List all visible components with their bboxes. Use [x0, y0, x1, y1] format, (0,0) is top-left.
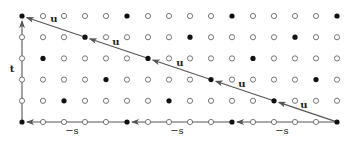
vector-arrows	[22, 18, 339, 124]
open-lattice-point	[19, 35, 24, 40]
open-lattice-point	[145, 13, 150, 18]
open-lattice-point	[82, 77, 87, 82]
open-lattice-point	[82, 56, 87, 61]
u-label: u	[112, 36, 119, 47]
open-lattice-point	[250, 98, 255, 103]
open-lattice-point	[313, 35, 318, 40]
open-lattice-point	[61, 119, 66, 124]
open-lattice-point	[103, 56, 108, 61]
open-lattice-point	[82, 98, 87, 103]
filled-lattice-point	[145, 56, 150, 61]
u-label: u	[300, 99, 307, 110]
open-lattice-point	[40, 119, 45, 124]
open-lattice-point	[313, 13, 318, 18]
open-lattice-point	[313, 98, 318, 103]
open-lattice-point	[187, 56, 192, 61]
open-lattice-point	[124, 98, 129, 103]
open-lattice-point	[166, 13, 171, 18]
open-lattice-point	[166, 77, 171, 82]
open-lattice-point	[313, 119, 318, 124]
open-lattice-point	[229, 98, 234, 103]
open-lattice-point	[166, 35, 171, 40]
u-vector-arrow	[216, 81, 276, 101]
filled-lattice-point	[313, 77, 318, 82]
filled-lattice-point	[292, 35, 297, 40]
minus-s-label: −s	[65, 125, 79, 136]
filled-lattice-point	[82, 35, 87, 40]
open-lattice-point	[313, 56, 318, 61]
filled-lattice-point	[40, 56, 45, 61]
open-lattice-point	[292, 13, 297, 18]
open-lattice-point	[145, 119, 150, 124]
open-lattice-point	[145, 77, 150, 82]
open-lattice-point	[145, 98, 150, 103]
open-lattice-point	[250, 77, 255, 82]
open-lattice-point	[19, 77, 24, 82]
filled-lattice-point	[229, 13, 234, 18]
open-lattice-point	[19, 56, 24, 61]
open-lattice-point	[208, 13, 213, 18]
open-lattice-point	[334, 56, 339, 61]
open-lattice-point	[208, 35, 213, 40]
open-lattice-point	[103, 13, 108, 18]
open-lattice-point	[124, 77, 129, 82]
open-lattice-point	[271, 35, 276, 40]
open-lattice-point	[40, 98, 45, 103]
filled-lattice-point	[271, 98, 276, 103]
filled-lattice-point	[250, 56, 255, 61]
open-lattice-point	[208, 56, 213, 61]
open-lattice-point	[208, 119, 213, 124]
open-lattice-point	[292, 77, 297, 82]
u-label: u	[176, 57, 183, 68]
u-label: u	[238, 78, 245, 89]
u-label: u	[50, 13, 57, 24]
minus-s-label: −s	[170, 125, 184, 136]
t-label: t	[10, 63, 15, 74]
open-lattice-point	[187, 119, 192, 124]
open-lattice-point	[271, 13, 276, 18]
open-lattice-point	[271, 77, 276, 82]
u-vector-arrow	[90, 39, 150, 59]
open-lattice-point	[40, 13, 45, 18]
minus-s-label: −s	[275, 125, 289, 136]
filled-lattice-point	[19, 119, 24, 124]
open-lattice-point	[208, 98, 213, 103]
lattice-diagram: uuuuut−s−s−s	[0, 0, 355, 142]
filled-lattice-point	[229, 119, 234, 124]
open-lattice-point	[292, 56, 297, 61]
open-lattice-point	[229, 77, 234, 82]
open-lattice-point	[103, 119, 108, 124]
filled-lattice-point	[19, 13, 24, 18]
filled-lattice-point	[124, 13, 129, 18]
open-lattice-point	[292, 98, 297, 103]
open-lattice-point	[229, 35, 234, 40]
filled-lattice-point	[124, 119, 129, 124]
open-lattice-point	[82, 119, 87, 124]
open-lattice-point	[166, 56, 171, 61]
open-lattice-point	[40, 35, 45, 40]
open-lattice-point	[61, 56, 66, 61]
filled-lattice-point	[187, 35, 192, 40]
open-lattice-point	[103, 98, 108, 103]
open-lattice-point	[82, 13, 87, 18]
open-lattice-point	[61, 13, 66, 18]
filled-lattice-point	[334, 119, 339, 124]
open-lattice-point	[40, 77, 45, 82]
open-lattice-point	[124, 56, 129, 61]
open-lattice-point	[271, 56, 276, 61]
open-lattice-point	[229, 56, 234, 61]
filled-lattice-point	[208, 77, 213, 82]
open-lattice-point	[334, 77, 339, 82]
open-lattice-point	[271, 119, 276, 124]
open-lattice-point	[124, 35, 129, 40]
open-lattice-point	[187, 77, 192, 82]
open-lattice-point	[145, 35, 150, 40]
open-lattice-point	[187, 13, 192, 18]
filled-lattice-point	[61, 98, 66, 103]
vector-labels: uuuuut−s−s−s	[10, 13, 308, 136]
open-lattice-point	[250, 35, 255, 40]
open-lattice-point	[61, 35, 66, 40]
filled-lattice-point	[334, 13, 339, 18]
open-lattice-point	[250, 13, 255, 18]
open-lattice-point	[334, 35, 339, 40]
